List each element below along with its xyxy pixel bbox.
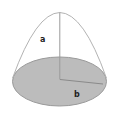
radius-label: b xyxy=(74,91,80,99)
cone-diagram: a b xyxy=(0,0,131,130)
slant-label: a xyxy=(40,36,45,44)
cone-diagram-svg xyxy=(0,0,131,130)
